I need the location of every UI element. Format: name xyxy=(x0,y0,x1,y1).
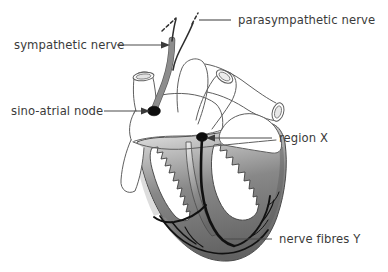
label-nerve-fibres-y: nerve fibres Y xyxy=(279,232,361,246)
parasympathetic-dashed-pointer xyxy=(192,13,198,24)
label-parasympathetic-nerve: parasympathetic nerve xyxy=(238,13,375,27)
inferior-vena-cava xyxy=(121,140,144,192)
parasympathetic-nerve-line xyxy=(173,23,193,70)
heart-nerve-supply-diagram: parasympathetic nerve sympathetic nerve … xyxy=(0,0,388,272)
figure-root: parasympathetic nerve sympathetic nerve … xyxy=(0,0,388,272)
label-region-x: region X xyxy=(279,131,328,145)
aortic-arch xyxy=(205,64,276,103)
label-sino-atrial-node: sino-atrial node xyxy=(11,104,103,118)
label-sympathetic-nerve: sympathetic nerve xyxy=(14,38,124,52)
parasympathetic-descending-line xyxy=(173,23,193,70)
